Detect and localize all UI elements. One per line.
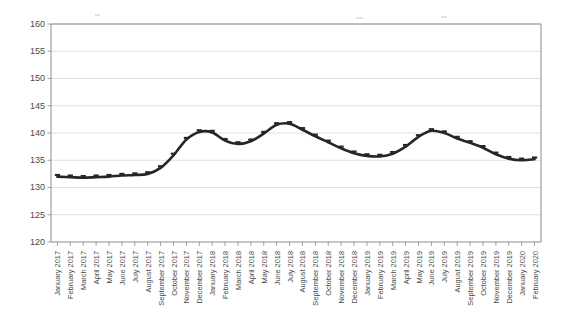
x-tick-label-27: April 2019 <box>402 251 411 284</box>
x-tick-label-18: July 2018 <box>286 251 295 283</box>
x-tick-label-8: September 2017 <box>157 251 166 306</box>
x-tick-label-21: October 2018 <box>324 251 333 296</box>
x-tick-label-31: August 2019 <box>453 251 462 293</box>
x-tick-label-16: May 2018 <box>260 251 269 283</box>
x-tick-label-25: February 2019 <box>376 251 385 299</box>
scan-speck-1 <box>441 16 447 18</box>
x-tick-label-4: May 2017 <box>105 251 114 283</box>
x-tick-label-10: November 2017 <box>182 251 191 304</box>
y-tick-label-120: 120 <box>30 237 45 247</box>
y-tick-label-160: 160 <box>30 19 45 29</box>
x-tick-label-23: December 2018 <box>350 251 359 304</box>
y-tick-label-155: 155 <box>30 46 45 56</box>
x-tick-label-17: June 2018 <box>273 251 282 286</box>
x-tick-label-22: November 2018 <box>337 251 346 304</box>
x-tick-label-37: February 2020 <box>531 251 540 299</box>
x-tick-label-14: March 2018 <box>234 251 243 290</box>
x-tick-label-35: December 2019 <box>505 251 514 304</box>
x-tick-label-12: January 2018 <box>208 251 217 296</box>
y-tick-label-135: 135 <box>30 155 45 165</box>
line-chart: 120125130135140145150155160 January 2017… <box>0 0 562 327</box>
x-tick-label-15: April 2018 <box>247 251 256 284</box>
x-tick-label-6: July 2017 <box>131 251 140 283</box>
x-tick-label-32: September 2019 <box>466 251 475 306</box>
y-tick-label-145: 145 <box>30 101 45 111</box>
x-tick-label-29: June 2019 <box>427 251 436 286</box>
x-tick-label-0: January 2017 <box>53 251 62 296</box>
x-tick-label-5: June 2017 <box>118 251 127 286</box>
x-tick-label-34: November 2019 <box>492 251 501 304</box>
chart-canvas: 120125130135140145150155160 January 2017… <box>0 0 562 327</box>
x-tick-label-20: September 2018 <box>311 251 320 306</box>
scan-speck-2 <box>95 14 100 16</box>
x-tick-label-3: April 2017 <box>92 251 101 284</box>
x-tick-label-33: October 2019 <box>479 251 488 296</box>
x-tick-label-9: October 2017 <box>170 251 179 296</box>
y-tick-label-125: 125 <box>30 210 45 220</box>
y-axis-labels: 120125130135140145150155160 <box>30 19 45 247</box>
x-tick-label-24: January 2019 <box>363 251 372 296</box>
x-tick-label-26: March 2019 <box>389 251 398 290</box>
x-tick-label-7: August 2017 <box>144 251 153 293</box>
x-tick-label-36: January 2020 <box>518 251 527 296</box>
y-tick-label-130: 130 <box>30 182 45 192</box>
y-tick-label-150: 150 <box>30 73 45 83</box>
x-tick-label-1: February 2017 <box>66 251 75 299</box>
y-tick-label-140: 140 <box>30 128 45 138</box>
scan-speck-0 <box>356 17 363 19</box>
x-tick-label-28: May 2019 <box>415 251 424 283</box>
x-tick-label-19: August 2018 <box>298 251 307 293</box>
x-tick-label-30: July 2019 <box>440 251 449 283</box>
x-tick-label-11: December 2017 <box>195 251 204 304</box>
x-tick-label-13: February 2018 <box>221 251 230 299</box>
x-tick-label-2: March 2017 <box>79 251 88 290</box>
